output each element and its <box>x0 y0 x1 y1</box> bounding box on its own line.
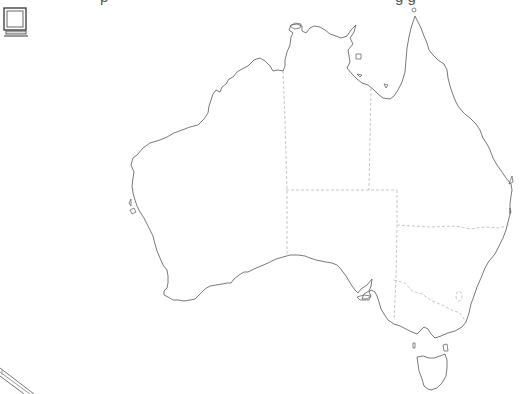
groote-eylandt <box>356 54 361 59</box>
australia-map <box>0 0 521 394</box>
shark-bay-island <box>130 208 136 214</box>
border-wa-nt-sa <box>283 71 287 256</box>
tasmania-coastline <box>417 354 447 390</box>
mornington-island <box>357 74 362 77</box>
cape-york-island <box>412 8 416 12</box>
fraser-island <box>509 176 513 184</box>
border-nt-qld <box>369 88 371 190</box>
mainland-coastline <box>131 16 512 338</box>
flinders-island <box>443 344 448 351</box>
king-island <box>413 343 415 348</box>
border-act <box>456 291 462 301</box>
border-qld-nsw <box>397 224 510 229</box>
border-sa-qld-nsw <box>394 190 397 320</box>
gulf-island <box>384 84 388 88</box>
border-nsw-vic <box>394 280 466 322</box>
dirk-hartog-island <box>129 199 131 206</box>
north-stradbroke-island <box>510 208 511 214</box>
